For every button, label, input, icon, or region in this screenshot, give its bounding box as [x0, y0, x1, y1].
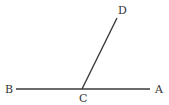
segment-cd [82, 18, 117, 89]
point-label-d: D [118, 4, 127, 17]
point-label-a: A [154, 83, 164, 96]
geometry-diagram: B C A D [0, 0, 169, 105]
point-label-b: B [5, 83, 13, 96]
point-label-c: C [79, 92, 87, 105]
